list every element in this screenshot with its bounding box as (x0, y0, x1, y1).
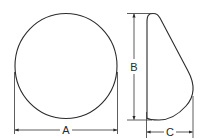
dimension-c: C (147, 96, 194, 138)
dimension-a-label: A (62, 124, 70, 136)
dimension-c-label: C (166, 126, 174, 138)
front-view: A (15, 14, 118, 137)
dimension-b: B (127, 14, 153, 121)
side-profile-outline (147, 14, 193, 121)
dimension-b-label: B (130, 61, 137, 73)
dimension-a: A (15, 72, 118, 136)
front-circle-outline (15, 14, 117, 119)
dimension-diagram: A B C (0, 0, 208, 139)
side-view: B C (127, 14, 193, 139)
